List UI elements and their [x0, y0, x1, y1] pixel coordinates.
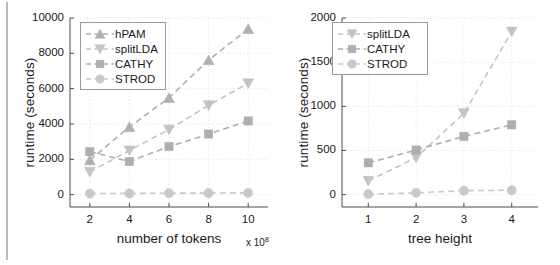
right-x-tick-label: 1 [348, 213, 388, 225]
legend-label: STROD [115, 72, 155, 86]
left-y-tick-label: 2000 [38, 152, 64, 164]
right-y-tick-label: 0 [330, 188, 336, 200]
left-x-tick-label: 8 [189, 213, 229, 225]
left-y-tick-label: 0 [58, 188, 64, 200]
right-series-cathy [364, 121, 516, 167]
right-x-tick-label: 3 [444, 213, 484, 225]
left-x-tick-label: 6 [149, 213, 189, 225]
chart-left-plot-area: 0200040006000800010000246810number of to… [8, 0, 280, 265]
right-y-tick-label: 500 [317, 143, 336, 155]
legend-label: splitLDA [115, 42, 158, 56]
left-y-tick-label: 8000 [38, 46, 64, 58]
chart-right-plot-area: 05001000150020001234tree heightruntime (… [284, 0, 556, 265]
legend-item-cathy[interactable]: CATHY [85, 56, 161, 71]
chart-right: 05001000150020001234tree heightruntime (… [284, 0, 556, 265]
left-x-tick-label: 4 [109, 213, 149, 225]
chart-left: 0200040006000800010000246810number of to… [8, 0, 280, 265]
right-legend[interactable]: splitLDACATHYSTROD [332, 22, 428, 75]
legend-marker-square-icon [85, 57, 115, 71]
left-x-axis-label: number of tokens [70, 231, 268, 246]
legend-item-hpam[interactable]: hPAM [85, 26, 161, 41]
legend-item-splitlda[interactable]: splitLDA [337, 26, 423, 41]
right-y-tick-label: 1000 [310, 99, 336, 111]
left-legend[interactable]: hPAMsplitLDACATHYSTROD [80, 22, 166, 90]
right-x-tick-label: 4 [492, 213, 532, 225]
figure-page: 0200040006000800010000246810number of to… [0, 0, 560, 265]
right-y-axis-label: runtime (seconds) [296, 18, 311, 207]
left-y-axis-label: runtime (seconds) [22, 18, 37, 207]
legend-marker-circle-icon [85, 72, 115, 86]
left-y-tick-label: 6000 [38, 82, 64, 94]
right-x-axis-label: tree height [342, 231, 538, 246]
legend-label: STROD [367, 57, 407, 71]
legend-item-splitlda[interactable]: splitLDA [85, 41, 161, 56]
legend-item-cathy[interactable]: CATHY [337, 41, 423, 56]
left-y-tick-label: 4000 [38, 117, 64, 129]
legend-label: splitLDA [367, 27, 410, 41]
legend-label: CATHY [367, 42, 405, 56]
legend-marker-circle-icon [337, 57, 367, 71]
legend-marker-triangle-down-icon [337, 27, 367, 41]
legend-label: CATHY [115, 57, 153, 71]
left-x-tick-label: 2 [70, 213, 110, 225]
legend-marker-triangle-down-icon [85, 42, 115, 56]
right-x-tick-label: 2 [396, 213, 436, 225]
legend-label: hPAM [115, 27, 145, 41]
left-x-axis-multiplier: x 108 [246, 236, 269, 248]
legend-item-strod[interactable]: STROD [85, 71, 161, 86]
left-x-tick-label: 10 [228, 213, 268, 225]
legend-marker-square-icon [337, 42, 367, 56]
legend-marker-triangle-up-icon [85, 27, 115, 41]
left-series-strod [85, 188, 253, 198]
legend-item-strod[interactable]: STROD [337, 56, 423, 71]
right-series-strod [364, 186, 517, 199]
